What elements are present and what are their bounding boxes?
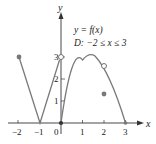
closed-point-neg2-3 [17,55,22,60]
axes: x y [8,2,151,134]
x-tick-label: −1 [34,127,44,137]
y-tick-labels: 1 2 3 [54,52,59,106]
function-graph: x y −2 −1 0 1 2 3 1 2 3 [0,0,156,144]
x-tick-label: 2 [102,127,107,137]
closed-point-3-0 [124,121,128,125]
closed-point-origin [59,121,63,125]
v-shape-segment [19,57,60,123]
y-tick-label: 1 [54,96,59,106]
closed-point-2-1.33 [102,92,107,97]
x-tick-label: 3 [123,127,128,137]
x-tick-label: 1 [80,127,85,137]
y-axis-arrow-icon [59,12,64,19]
y-axis-label: y [57,2,63,13]
x-tick-label: −2 [12,127,22,137]
domain-label: D: −2 ≤ x ≤ 3 [73,38,127,48]
y-ticks [61,57,65,101]
annotation: y = f(x) D: −2 ≤ x ≤ 3 [73,25,127,48]
open-point-2-2.67 [102,64,107,69]
data-points [17,55,128,126]
function-curves [19,55,126,123]
x-axis-label: x [145,118,151,129]
open-point-0-3 [59,55,64,60]
x-tick-label: 0 [54,127,59,137]
function-label: y = f(x) [73,25,103,36]
x-tick-labels: −2 −1 0 1 2 3 [12,127,128,137]
x-axis-arrow-icon [137,121,144,126]
parabola-segment [61,55,126,123]
